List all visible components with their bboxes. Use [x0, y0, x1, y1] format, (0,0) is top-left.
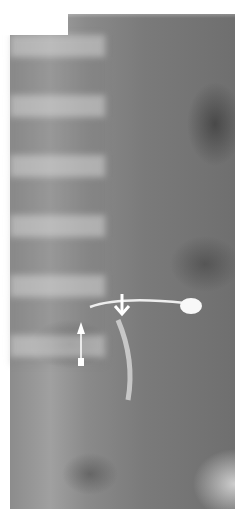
- annotation-overlay: [0, 0, 244, 509]
- catheter-line: [90, 300, 185, 307]
- arrow-up-icon: [77, 322, 85, 366]
- contrast-streak: [118, 320, 130, 400]
- balloon-tip: [180, 298, 202, 314]
- arrow-down-icon: [115, 294, 129, 314]
